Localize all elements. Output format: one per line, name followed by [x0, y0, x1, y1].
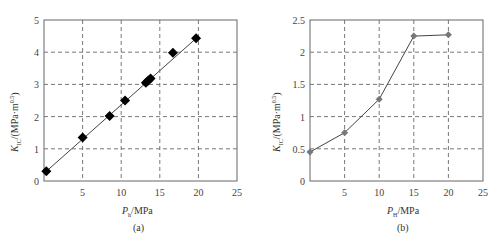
x-tick-label: 10 — [116, 187, 126, 198]
y-tick-label: 0 — [300, 176, 305, 187]
ylabel-symbol: K — [271, 145, 282, 152]
x-tick-label: 10 — [374, 187, 384, 198]
diamond-marker — [307, 149, 314, 156]
y-tick-label: 1 — [300, 112, 305, 123]
plot-frame — [310, 20, 483, 181]
ylabel-sup: 0.5 — [9, 96, 15, 104]
x-axis-title-b: PH/MPa — [387, 205, 419, 218]
ylabel-sup: 0.5 — [271, 96, 277, 104]
xlabel-unit: /MPa — [397, 205, 419, 216]
chart-a: 510152025012345 KIC/(MPa·m0.5) Ph/MPa (a… — [0, 0, 247, 242]
y-tick-label: 4 — [34, 47, 39, 58]
x-tick-label: 25 — [478, 187, 488, 198]
y-tick-label: 2 — [300, 47, 305, 58]
x-tick-label: 5 — [80, 187, 85, 198]
diamond-marker — [78, 133, 88, 143]
y-tick-label: 5 — [34, 15, 39, 26]
x-tick-label: 15 — [155, 187, 165, 198]
y-tick-label: 2.5 — [293, 15, 306, 26]
ylabel-sub: IC — [16, 139, 22, 145]
x-axis-title-a: Ph/MPa — [122, 205, 153, 218]
ylabel-unit: /(MPa·m — [9, 103, 20, 139]
y-axis-title-b: KIC/(MPa·m0.5) — [271, 92, 284, 152]
caption-a: (a) — [133, 222, 144, 233]
x-tick-label: 25 — [232, 187, 242, 198]
plot-frame — [44, 20, 237, 181]
diamond-marker — [445, 31, 452, 38]
ylabel-unit: /(MPa·m — [271, 103, 282, 139]
y-axis-title-a: KIC/(MPa·m0.5) — [9, 92, 22, 152]
xlabel-unit: /MPa — [131, 205, 153, 216]
y-tick-label: 1.5 — [293, 79, 306, 90]
y-tick-label: 0 — [34, 176, 39, 187]
x-tick-label: 20 — [443, 187, 453, 198]
y-tick-label: 1 — [34, 144, 39, 155]
x-tick-label: 20 — [193, 187, 203, 198]
x-tick-label: 5 — [342, 187, 347, 198]
diamond-marker — [410, 33, 417, 40]
x-tick-label: 15 — [409, 187, 419, 198]
ylabel-close: ) — [9, 92, 20, 95]
caption-b: (b) — [397, 222, 409, 233]
ylabel-sub: IC — [278, 139, 284, 145]
y-tick-label: 3 — [34, 79, 39, 90]
y-tick-label: 2 — [34, 112, 39, 123]
chart-b: 51015202500.511.522.5 KIC/(MPa·m0.5) PH/… — [247, 0, 494, 242]
ylabel-close: ) — [271, 92, 282, 95]
ylabel-symbol: K — [9, 145, 20, 152]
y-tick-label: 0.5 — [293, 144, 306, 155]
